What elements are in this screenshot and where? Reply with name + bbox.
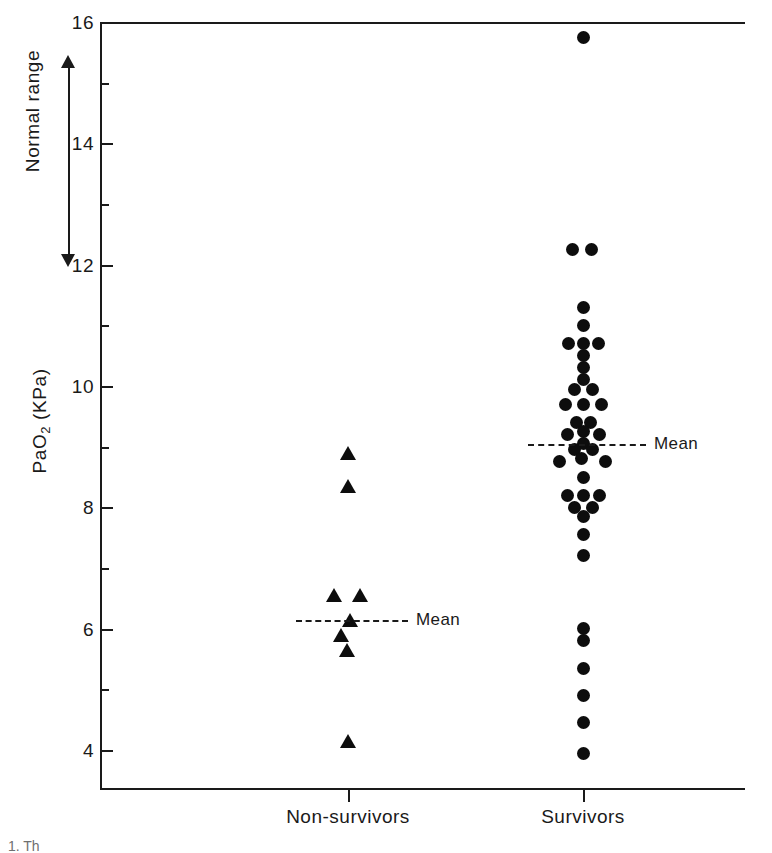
y-tick-minor bbox=[100, 325, 109, 327]
y-tick-minor bbox=[100, 689, 109, 691]
data-point-dot bbox=[577, 689, 590, 702]
plot-frame bbox=[100, 22, 745, 790]
y-axis-title-unit: (KPa) bbox=[29, 368, 50, 425]
x-tick bbox=[583, 790, 585, 802]
data-point-dot bbox=[577, 319, 590, 332]
data-point-triangle bbox=[340, 734, 356, 748]
data-point-dot bbox=[577, 489, 590, 502]
y-tick-label: 8 bbox=[56, 498, 94, 517]
y-tick-label: 14 bbox=[56, 134, 94, 153]
y-tick-major bbox=[100, 386, 113, 388]
x-tick-label-survivors: Survivors bbox=[541, 806, 625, 828]
data-point-dot bbox=[575, 452, 588, 465]
mean-label-non-survivors: Mean bbox=[416, 610, 460, 630]
y-axis-title-subscript: 2 bbox=[38, 426, 53, 434]
data-point-dot bbox=[577, 301, 590, 314]
normal-range-label: Normal range bbox=[22, 16, 44, 206]
data-point-dot bbox=[577, 471, 590, 484]
y-tick-major bbox=[100, 143, 113, 145]
data-point-dot bbox=[599, 455, 612, 468]
y-tick-minor bbox=[100, 204, 109, 206]
y-tick-major bbox=[100, 750, 113, 752]
y-tick-major bbox=[100, 629, 113, 631]
y-tick-label: 16 bbox=[56, 13, 94, 32]
y-tick-major bbox=[100, 507, 113, 509]
caption-text: 1. Th bbox=[8, 838, 608, 852]
y-axis-title: PaO2 (KPa) bbox=[29, 321, 51, 521]
data-point-dot bbox=[553, 455, 566, 468]
data-point-triangle bbox=[340, 479, 356, 493]
y-tick-label: 4 bbox=[56, 741, 94, 760]
figure-container: PaO2 (KPa) Normal range 46810121416 Mean… bbox=[0, 0, 772, 853]
data-point-dot bbox=[577, 662, 590, 675]
mean-line-survivors bbox=[528, 444, 646, 446]
data-point-dot bbox=[561, 428, 574, 441]
data-point-dot bbox=[561, 489, 574, 502]
data-point-dot bbox=[577, 398, 590, 411]
data-point-triangle bbox=[333, 628, 349, 642]
x-tick bbox=[348, 790, 350, 802]
y-tick-minor bbox=[100, 83, 109, 85]
x-tick-label-non-survivors: Non-survivors bbox=[286, 806, 410, 828]
data-point-dot bbox=[593, 489, 606, 502]
y-tick-label: 6 bbox=[56, 619, 94, 638]
data-point-dot bbox=[577, 510, 590, 523]
normal-range-arrow bbox=[60, 56, 78, 266]
data-point-dot bbox=[577, 337, 590, 350]
mean-label-survivors: Mean bbox=[654, 434, 698, 454]
data-point-dot bbox=[568, 383, 581, 396]
data-point-dot bbox=[577, 747, 590, 760]
data-point-dot bbox=[566, 243, 579, 256]
y-axis-title-base: PaO bbox=[29, 434, 50, 474]
data-point-dot bbox=[577, 549, 590, 562]
mean-line-non-survivors bbox=[296, 620, 408, 622]
data-point-dot bbox=[593, 428, 606, 441]
y-tick-major bbox=[100, 265, 113, 267]
data-point-dot bbox=[586, 383, 599, 396]
data-point-dot bbox=[559, 398, 572, 411]
data-point-triangle bbox=[352, 588, 368, 602]
data-point-triangle bbox=[340, 446, 356, 460]
data-point-dot bbox=[595, 398, 608, 411]
data-point-dot bbox=[592, 337, 605, 350]
data-point-dot bbox=[577, 361, 590, 374]
data-point-dot bbox=[577, 425, 590, 438]
data-point-dot bbox=[577, 528, 590, 541]
y-tick-minor bbox=[100, 568, 109, 570]
data-point-triangle bbox=[326, 588, 342, 602]
data-point-dot bbox=[577, 349, 590, 362]
y-tick-minor bbox=[100, 447, 109, 449]
data-point-dot bbox=[577, 622, 590, 635]
data-point-dot bbox=[577, 716, 590, 729]
data-point-dot bbox=[562, 337, 575, 350]
data-point-dot bbox=[585, 243, 598, 256]
data-point-dot bbox=[577, 634, 590, 647]
data-point-dot bbox=[577, 31, 590, 44]
arrow-shaft bbox=[68, 64, 70, 258]
data-point-triangle bbox=[339, 643, 355, 657]
y-tick-major bbox=[100, 22, 113, 24]
y-tick-label: 10 bbox=[56, 377, 94, 396]
y-tick-label: 12 bbox=[56, 255, 94, 274]
